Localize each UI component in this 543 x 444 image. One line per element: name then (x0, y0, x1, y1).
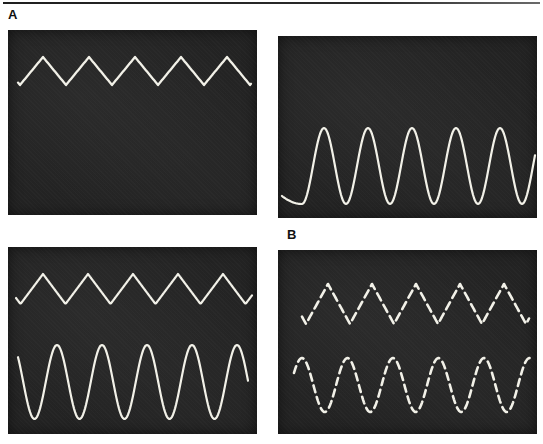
oscilloscope-panel-top-left (8, 30, 257, 215)
oscilloscope-panel-bottom-right (278, 250, 537, 434)
triangle-wave-trace (8, 30, 257, 215)
figure-page: A B (0, 0, 543, 444)
dashed-triangle-and-sine-wave-traces (278, 250, 537, 434)
sine-wave-trace (278, 36, 537, 218)
oscilloscope-panel-bottom-left (8, 247, 257, 434)
panel-label-a: A (8, 8, 18, 22)
panel-label-b: B (287, 228, 297, 242)
top-rule (3, 2, 540, 4)
oscilloscope-panel-top-right (278, 36, 537, 218)
triangle-and-sine-wave-traces (8, 247, 257, 434)
